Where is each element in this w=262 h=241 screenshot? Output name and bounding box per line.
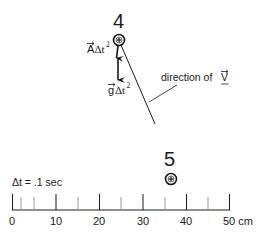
diagram-canvas: 4 A Δt 2 g Δt 2 direction of V 5 [0, 0, 262, 241]
acceleration-arrow [117, 46, 119, 58]
velocity-leader-line [149, 85, 177, 102]
ruler-label-40: 40 [180, 215, 192, 227]
positive-charge-icon [166, 174, 177, 185]
acceleration-label: A Δt 2 [87, 40, 110, 55]
ruler-label-20: 20 [93, 215, 105, 227]
timestep-label: Δt = .1 sec [12, 176, 62, 188]
ruler-label-10: 10 [50, 215, 62, 227]
velocity-label-text: direction of [161, 71, 215, 83]
particle-4: 4 [113, 10, 125, 46]
particle-5: 5 [164, 148, 177, 185]
ruler-label-50: 50 cm [223, 215, 253, 227]
ruler-labels: 0 10 20 30 40 50 cm [9, 215, 253, 227]
gravity-exponent: 2 [127, 81, 131, 90]
ruler-ticks [13, 194, 230, 210]
ruler-label-30: 30 [137, 215, 149, 227]
particle-4-label: 4 [113, 10, 124, 32]
positive-charge-icon [114, 35, 125, 46]
gravity-dt-text: Δt [115, 84, 125, 96]
gravity-label: g Δt 2 [108, 81, 131, 96]
particle-5-label: 5 [164, 148, 175, 170]
ruler: 0 10 20 30 40 50 cm [9, 194, 253, 227]
acceleration-exponent: 2 [106, 40, 110, 49]
acceleration-dt-text: Δt [95, 43, 105, 55]
ruler-label-0: 0 [9, 215, 15, 227]
velocity-label: direction of V [161, 70, 229, 84]
